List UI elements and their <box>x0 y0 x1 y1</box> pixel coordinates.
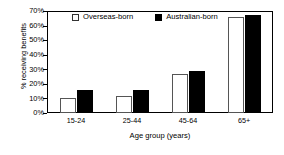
y-tick-mark <box>43 11 47 12</box>
y-tick-mark <box>43 40 47 41</box>
y-tick-mark <box>43 26 47 27</box>
y-tick-label: 50% <box>10 36 44 43</box>
bar-australian-born <box>189 71 205 113</box>
y-tick-mark <box>43 55 47 56</box>
bar-chart: % receiving benefits 0%10%20%30%40%50%60… <box>0 0 284 155</box>
bar-overseas-born <box>172 74 188 113</box>
y-tick-label: 70% <box>10 7 44 14</box>
bars-layer <box>48 11 272 113</box>
y-tick-label: 0% <box>10 109 44 116</box>
bar-australian-born <box>133 90 149 113</box>
y-tick-mark <box>43 84 47 85</box>
y-tick-mark <box>43 113 47 114</box>
legend-item: Australian-born <box>155 13 218 21</box>
y-tick-mark <box>43 98 47 99</box>
bar-group <box>216 11 272 113</box>
legend-label: Overseas-born <box>83 13 133 21</box>
y-tick-label: 10% <box>10 95 44 102</box>
x-axis-tick-labels: 15-2425-4445-6465+ <box>48 117 272 129</box>
legend-swatch-australian-born <box>155 14 162 21</box>
legend-swatch-overseas-born <box>72 14 79 21</box>
bar-group <box>104 11 160 113</box>
bar-australian-born <box>245 15 261 113</box>
bar-group <box>160 11 216 113</box>
legend-item: Overseas-born <box>72 13 133 21</box>
x-axis-title: Age group (years) <box>48 131 272 140</box>
y-tick-label: 20% <box>10 80 44 87</box>
y-tick-label: 30% <box>10 66 44 73</box>
bar-overseas-born <box>228 17 244 113</box>
bar-overseas-born <box>60 98 76 113</box>
y-tick-label: 60% <box>10 22 44 29</box>
y-tick-label: 40% <box>10 51 44 58</box>
y-tick-mark <box>43 69 47 70</box>
x-tick-label: 15-24 <box>48 117 104 125</box>
x-tick-label: 45-64 <box>160 117 216 125</box>
bar-australian-born <box>77 90 93 113</box>
legend-label: Australian-born <box>166 13 218 21</box>
x-tick-label: 65+ <box>216 117 272 125</box>
bar-overseas-born <box>116 96 132 113</box>
bar-group <box>48 11 104 113</box>
x-tick-label: 25-44 <box>104 117 160 125</box>
plot-frame-right-border <box>272 11 273 113</box>
legend: Overseas-bornAustralian-born <box>72 13 218 21</box>
y-axis-tick-labels: 0%10%20%30%40%50%60%70% <box>10 0 44 155</box>
